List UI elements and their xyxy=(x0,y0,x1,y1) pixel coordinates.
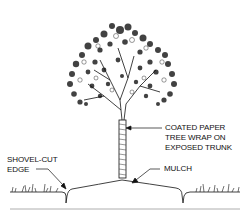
shovel-cut-edge-label: SHOVEL-CUT EDGE xyxy=(7,155,58,175)
tree-wrap-label-line-1: COATED PAPER xyxy=(165,123,232,133)
tree-wrap-label-line-2: TREE WRAP ON xyxy=(165,133,232,143)
ground-profile xyxy=(10,180,240,203)
wrapped-trunk xyxy=(119,120,126,178)
mulch-label: MULCH xyxy=(164,164,192,174)
mulch-label-line-1: MULCH xyxy=(164,164,192,174)
grass-tufts xyxy=(12,184,239,192)
tree-wrap-label: COATED PAPER TREE WRAP ON EXPOSED TRUNK xyxy=(165,123,232,153)
tree-canopy xyxy=(67,23,177,120)
tree-wrap-label-line-3: EXPOSED TRUNK xyxy=(165,143,232,153)
tree-planting-diagram xyxy=(0,0,247,216)
shovel-cut-edge-label-line-2: EDGE xyxy=(7,165,58,175)
shovel-cut-edge-label-line-1: SHOVEL-CUT xyxy=(7,155,58,165)
